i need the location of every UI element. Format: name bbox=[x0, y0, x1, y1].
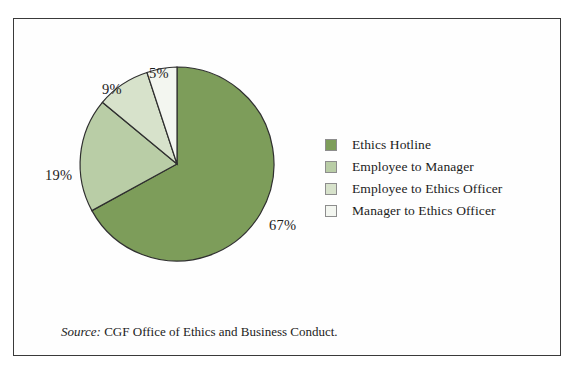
pie-value-label-employee-to-ethics-officer: 9% bbox=[102, 81, 122, 98]
source-prefix: Source: bbox=[61, 324, 101, 339]
legend-item-employee-to-ethics-officer[interactable]: Employee to Ethics Officer bbox=[325, 178, 555, 199]
legend-label: Manager to Ethics Officer bbox=[352, 203, 496, 219]
legend-item-manager-to-ethics-officer[interactable]: Manager to Ethics Officer bbox=[325, 200, 555, 221]
legend-label: Employee to Ethics Officer bbox=[352, 181, 502, 197]
pie-value-label-manager-to-ethics-officer: 5% bbox=[149, 65, 169, 82]
legend-swatch-icon bbox=[325, 205, 337, 217]
figure-frame: 67% 19% 9% 5% Ethics Hotline Employee to… bbox=[13, 18, 561, 356]
legend-item-ethics-hotline[interactable]: Ethics Hotline bbox=[325, 134, 555, 155]
legend-swatch-icon bbox=[325, 139, 337, 151]
pie-value-label-employee-to-manager: 19% bbox=[45, 167, 72, 184]
legend-label: Employee to Manager bbox=[352, 159, 474, 175]
source-text: CGF Office of Ethics and Business Conduc… bbox=[101, 324, 338, 339]
legend-label: Ethics Hotline bbox=[352, 137, 431, 153]
chart-legend: Ethics Hotline Employee to Manager Emplo… bbox=[325, 134, 555, 222]
legend-item-employee-to-manager[interactable]: Employee to Manager bbox=[325, 156, 555, 177]
pie-value-label-ethics-hotline: 67% bbox=[269, 217, 296, 234]
legend-swatch-icon bbox=[325, 161, 337, 173]
legend-swatch-icon bbox=[325, 183, 337, 195]
source-note: Source: CGF Office of Ethics and Busines… bbox=[61, 324, 338, 340]
